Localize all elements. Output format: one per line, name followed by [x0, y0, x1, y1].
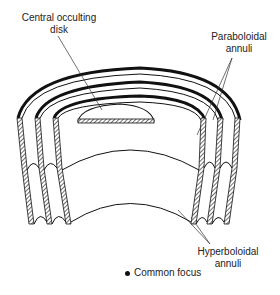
annuli-drawing: [0, 0, 280, 295]
occulting-disk: [78, 104, 154, 123]
